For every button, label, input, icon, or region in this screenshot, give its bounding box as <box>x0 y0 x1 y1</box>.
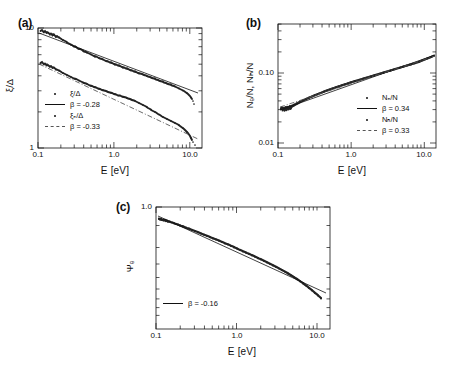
legend-label: β = 0.33 <box>382 126 409 135</box>
legend-item: Nₕ/N <box>356 114 409 125</box>
panel-b-label: (b) <box>246 16 261 30</box>
panel-c-label: (c) <box>116 200 130 214</box>
panel-a-ytick-1: 10 <box>20 23 34 32</box>
panel-b-xtick-1: 1.0 <box>341 150 361 159</box>
panel-c-yaxis-title: Ψₑ <box>124 247 135 287</box>
panel-c-legend: β = -0.16 <box>162 298 218 309</box>
panel-c: (c) <box>100 185 380 369</box>
panel-a-xtick-2: 10.0 <box>179 150 201 159</box>
panel-b: (b) <box>232 0 464 185</box>
panel-b-xtick-2: 10.0 <box>413 150 435 159</box>
panel-a: (a) <box>0 0 232 185</box>
fit-line-beta-028 <box>39 33 198 93</box>
panel-a-xaxis-title: E [eV] <box>80 165 150 176</box>
legend-label: Nₑ/N <box>382 93 398 102</box>
marker-dot-icon <box>44 115 66 117</box>
legend-item: β = 0.34 <box>356 103 409 114</box>
legend-item: β = -0.33 <box>44 121 100 132</box>
line-solid-icon <box>356 108 378 109</box>
figure-panels: (a) <box>0 0 464 369</box>
legend-label: β = -0.28 <box>70 100 100 109</box>
panel-a-xtick-1: 1.0 <box>104 150 124 159</box>
panel-c-xaxis-title: E [eV] <box>202 346 282 357</box>
legend-label: Nₕ/N <box>382 115 398 124</box>
panel-b-xaxis-title: E [eV] <box>317 165 387 176</box>
legend-item: β = -0.28 <box>44 99 100 110</box>
panel-c-xtick-0: 0.1 <box>146 331 166 340</box>
legend-label: ξₑ/Δ <box>70 111 83 120</box>
line-dashdot-icon <box>356 130 378 131</box>
panel-b-xtick-0: 0.1 <box>268 150 288 159</box>
panel-a-yaxis-title: ξ/Δ <box>4 66 15 106</box>
legend-label: β = 0.34 <box>382 104 409 113</box>
series-psi-e <box>158 218 322 300</box>
legend-item: β = -0.16 <box>162 298 218 309</box>
panel-a-legend: ξ/Δ β = -0.28 ξₑ/Δ β = -0.33 <box>44 88 100 132</box>
panel-b-ytick-0: 0.01 <box>252 138 274 147</box>
panel-c-xtick-2: 10.0 <box>306 331 328 340</box>
legend-label: β = -0.33 <box>70 122 100 131</box>
line-solid-icon <box>162 303 184 304</box>
panel-c-plot <box>100 185 380 369</box>
panel-b-ytick-1: 0.10 <box>252 68 274 77</box>
panel-a-ytick-0: 1 <box>20 143 34 152</box>
marker-dot-icon <box>44 93 66 95</box>
legend-label: ξ/Δ <box>70 89 80 98</box>
legend-item: Nₑ/N <box>356 92 409 103</box>
panel-b-legend: Nₑ/N β = 0.34 Nₕ/N β = 0.33 <box>356 92 409 136</box>
marker-dot-icon <box>356 97 378 99</box>
legend-label: β = -0.16 <box>188 299 218 308</box>
line-solid-icon <box>44 104 66 105</box>
fit-line-beta-016 <box>158 216 326 293</box>
marker-dot-icon <box>356 119 378 121</box>
legend-item: β = 0.33 <box>356 125 409 136</box>
panel-b-yaxis-title: Nₑ/N, Nₕ/N <box>244 53 255 119</box>
panel-c-ytick-0: 1.0 <box>132 202 152 211</box>
panel-c-xtick-1: 1.0 <box>227 331 247 340</box>
legend-item: ξₑ/Δ <box>44 110 100 121</box>
legend-item: ξ/Δ <box>44 88 100 99</box>
line-dashdot-icon <box>44 126 66 127</box>
